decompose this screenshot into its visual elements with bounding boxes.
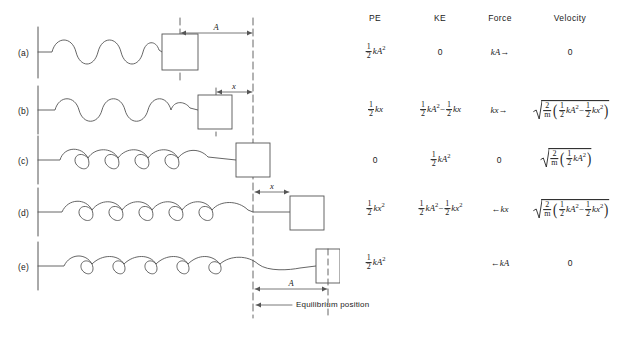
paren-close: ) bbox=[587, 152, 591, 166]
fraction-two-over-m: 2 m bbox=[550, 150, 558, 168]
column-header-ke: KE bbox=[434, 13, 446, 23]
fraction-numerator: 1 bbox=[366, 43, 372, 51]
cell-force-row-e: ←kA bbox=[491, 258, 510, 268]
fraction-denominator: m bbox=[550, 159, 558, 168]
radical-tick bbox=[533, 199, 542, 219]
fraction-denominator: m bbox=[543, 210, 551, 219]
fraction-numerator: 1 bbox=[444, 200, 450, 208]
figure-root: (a) (b) (c) (d) (e) A x x A Equilibrium … bbox=[0, 0, 621, 337]
column-header-force: Force bbox=[488, 13, 512, 23]
cell-velocity-row-c: 2 m ( 1 2 kA2) bbox=[540, 148, 591, 168]
fraction-one-half: 1 2 bbox=[431, 151, 437, 169]
minus-sign: − bbox=[579, 204, 584, 214]
symbol-x: x bbox=[505, 204, 509, 214]
fraction-one-half: 1 2 bbox=[585, 102, 591, 120]
spring-row-a bbox=[38, 40, 162, 64]
arrow-left-icon: ← bbox=[492, 204, 501, 214]
fraction-denominator: 2 bbox=[366, 209, 372, 218]
vinculum bbox=[541, 199, 609, 200]
fraction-one-half: 1 2 bbox=[559, 201, 565, 219]
row-label-a: (a) bbox=[18, 48, 29, 58]
fraction-denominator: 2 bbox=[418, 209, 424, 218]
exponent: 2 bbox=[381, 201, 384, 208]
dimension-label-d: x bbox=[270, 181, 274, 191]
fraction-numerator: 1 bbox=[585, 102, 591, 110]
cell-force-row-c: 0 bbox=[497, 155, 502, 165]
fraction-numerator: 1 bbox=[366, 200, 372, 208]
fraction-denominator: 2 bbox=[431, 160, 437, 169]
row-label-b: (b) bbox=[18, 106, 29, 116]
fraction-numerator: 1 bbox=[431, 151, 437, 159]
fraction-numerator: 1 bbox=[366, 254, 372, 262]
cell-pe-row-e: 1 2 kA2 bbox=[365, 254, 386, 272]
fraction-one-half: 1 2 bbox=[444, 200, 450, 218]
fraction-one-half: 1 2 bbox=[366, 43, 372, 61]
fraction-one-half: 1 2 bbox=[420, 101, 426, 119]
radical-tick bbox=[540, 148, 549, 168]
column-header-pe: PE bbox=[369, 13, 381, 23]
dimension-label-b: x bbox=[232, 81, 236, 91]
energy-force-table: PE KE Force Velocity 1 2 kA2 0 kA→ 0 1 2… bbox=[340, 0, 621, 337]
dimension-label-a: A bbox=[213, 22, 218, 32]
fraction-one-half: 1 2 bbox=[559, 102, 565, 120]
paren-close: ) bbox=[604, 104, 608, 118]
square-root-icon: 2 m ( 1 2 kA2) bbox=[540, 148, 591, 168]
fraction-one-half: 1 2 bbox=[368, 101, 374, 119]
fraction-numerator: 2 bbox=[543, 201, 551, 209]
row-label-d: (d) bbox=[18, 208, 29, 218]
arrow-right-icon: → bbox=[499, 105, 508, 115]
exponent: 2 bbox=[459, 201, 462, 208]
paren-close: ) bbox=[604, 203, 608, 217]
cell-ke-row-d: 1 2 kA2− 1 2 kx2 bbox=[417, 200, 462, 218]
cell-pe-row-d: 1 2 kx2 bbox=[365, 200, 384, 218]
fraction-denominator: 2 bbox=[585, 210, 591, 219]
fraction-denominator: 2 bbox=[366, 52, 372, 61]
cell-pe-row-c: 0 bbox=[373, 155, 378, 165]
vinculum bbox=[541, 100, 609, 101]
column-header-velocity: Velocity bbox=[554, 13, 587, 23]
cell-ke-row-c: 1 2 kA2 bbox=[430, 151, 451, 169]
fraction-one-half: 1 2 bbox=[566, 150, 572, 168]
fraction-two-over-m: 2 m bbox=[543, 201, 551, 219]
vinculum bbox=[548, 148, 591, 149]
square-root-icon: 2 m ( 1 2 kA2− 1 2 kx2) bbox=[533, 199, 609, 219]
exponent: 2 bbox=[600, 202, 603, 209]
spring-row-b bbox=[38, 99, 198, 122]
radical-tick bbox=[533, 100, 542, 120]
exponent: 2 bbox=[583, 151, 586, 158]
arrow-left-icon: ← bbox=[491, 258, 500, 268]
block-row-c bbox=[236, 143, 270, 177]
fraction-numerator: 1 bbox=[559, 102, 565, 110]
fraction-denominator: m bbox=[543, 111, 551, 120]
block-row-a bbox=[162, 34, 198, 70]
fraction-denominator: 2 bbox=[420, 110, 426, 119]
spring-mass-diagram: (a) (b) (c) (d) (e) A x x A Equilibrium … bbox=[0, 0, 340, 337]
fraction-two-over-m: 2 m bbox=[543, 102, 551, 120]
exponent: 2 bbox=[600, 103, 603, 110]
fraction-numerator: 1 bbox=[585, 201, 591, 209]
row-label-c: (c) bbox=[18, 156, 29, 166]
fraction-denominator: 2 bbox=[559, 111, 565, 120]
cell-velocity-row-a: 0 bbox=[568, 47, 573, 57]
fraction-numerator: 1 bbox=[418, 200, 424, 208]
fraction-one-half: 1 2 bbox=[366, 254, 372, 272]
spring-row-e bbox=[38, 256, 316, 274]
fraction-one-half: 1 2 bbox=[585, 201, 591, 219]
block-row-b bbox=[198, 95, 232, 129]
fraction-numerator: 1 bbox=[368, 101, 374, 109]
fraction-one-half: 1 2 bbox=[446, 101, 452, 119]
cell-pe-row-b: 1 2 kx bbox=[367, 101, 383, 119]
cell-force-row-d: ←kx bbox=[492, 204, 509, 214]
exponent: 2 bbox=[447, 152, 450, 159]
paren-open: ( bbox=[553, 203, 557, 217]
dimension-label-e: A bbox=[288, 278, 293, 288]
fraction-numerator: 1 bbox=[566, 150, 572, 158]
cell-ke-row-a: 0 bbox=[438, 47, 443, 57]
fraction-numerator: 1 bbox=[446, 101, 452, 109]
paren-open: ( bbox=[560, 152, 564, 166]
fraction-numerator: 1 bbox=[559, 201, 565, 209]
fraction-numerator: 2 bbox=[550, 150, 558, 158]
fraction-denominator: 2 bbox=[446, 110, 452, 119]
minus-sign: − bbox=[579, 105, 584, 115]
cell-velocity-row-e: 0 bbox=[568, 258, 573, 268]
